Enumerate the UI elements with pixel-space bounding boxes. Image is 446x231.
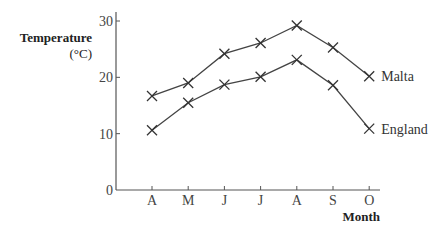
x-marker-icon	[292, 21, 302, 31]
x-marker-icon	[364, 124, 374, 134]
x-marker-icon	[183, 98, 193, 108]
x-marker-icon	[328, 80, 338, 90]
x-marker-icon	[147, 125, 157, 135]
x-tick-label: A	[147, 193, 158, 208]
series-label: Malta	[381, 69, 414, 84]
x-marker-icon	[292, 55, 302, 65]
y-tick-label: 0	[106, 183, 113, 198]
x-marker-icon	[256, 72, 266, 82]
series-line	[152, 60, 369, 130]
x-marker-icon	[256, 38, 266, 48]
series-malta: Malta	[147, 21, 415, 101]
x-marker-icon	[364, 71, 374, 81]
y-tick-label: 30	[99, 14, 113, 29]
y-tick-label: 20	[99, 70, 113, 85]
series-label: England	[381, 122, 428, 137]
series-line	[152, 26, 369, 96]
line-chart: 0102030AMJJASO MaltaEngland	[0, 0, 446, 231]
series-england: England	[147, 55, 428, 137]
x-marker-icon	[219, 80, 229, 90]
series-group: MaltaEngland	[147, 21, 428, 137]
x-tick-label: J	[222, 193, 228, 208]
x-marker-icon	[328, 42, 338, 52]
axes: 0102030AMJJASO	[99, 12, 380, 208]
y-tick-label: 10	[99, 127, 113, 142]
x-marker-icon	[219, 49, 229, 59]
x-marker-icon	[147, 91, 157, 101]
x-tick-label: S	[329, 193, 337, 208]
x-tick-label: M	[182, 193, 195, 208]
x-tick-label: O	[364, 193, 374, 208]
x-marker-icon	[183, 78, 193, 88]
x-tick-label: J	[258, 193, 264, 208]
x-tick-label: A	[292, 193, 303, 208]
